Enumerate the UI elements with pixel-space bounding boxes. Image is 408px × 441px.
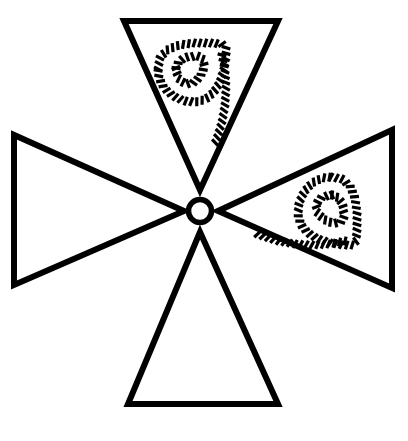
diagram-canvas: [0, 0, 408, 441]
figure-svg: [0, 0, 408, 441]
